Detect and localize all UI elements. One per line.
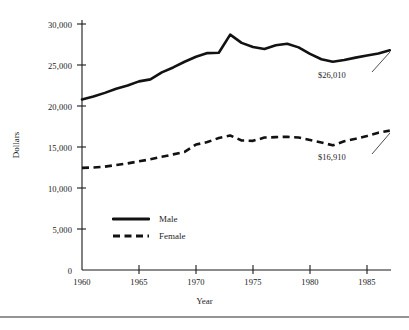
legend-item-male: Male bbox=[112, 210, 232, 227]
x-axis-title: Year bbox=[0, 296, 409, 306]
x-tick-label-1980: 1980 bbox=[290, 277, 330, 287]
chart-legend: Male Female bbox=[112, 210, 232, 244]
x-tick-label-1975: 1975 bbox=[233, 277, 273, 287]
legend-swatch-dashed-icon bbox=[112, 231, 150, 241]
y-tick-label-10000: 10,000 bbox=[12, 184, 72, 194]
annotation-leader-female bbox=[372, 133, 390, 154]
y-tick-label-20000: 20,000 bbox=[12, 102, 72, 112]
annotation-label-male: $26,010 bbox=[318, 70, 346, 80]
y-tick-label-15000: 15,000 bbox=[12, 143, 72, 153]
chart-figure: 30,000 25,000 20,000 15,000 10,000 5,000… bbox=[0, 0, 409, 330]
x-tick-label-1985: 1985 bbox=[347, 277, 387, 287]
x-tick-label-1960: 1960 bbox=[62, 277, 102, 287]
x-tick-label-1965: 1965 bbox=[119, 277, 159, 287]
x-tick-label-1970: 1970 bbox=[176, 277, 216, 287]
legend-label-male: Male bbox=[159, 214, 178, 224]
y-tick-label-25000: 25,000 bbox=[12, 61, 72, 71]
legend-item-female: Female bbox=[112, 227, 232, 244]
y-tick-label-0: 0 bbox=[12, 266, 72, 276]
legend-label-female: Female bbox=[159, 231, 186, 241]
y-tick-label-5000: 5,000 bbox=[12, 225, 72, 235]
series-line-male bbox=[82, 35, 390, 100]
annotation-label-female: $16,910 bbox=[318, 152, 346, 162]
legend-swatch-solid-icon bbox=[112, 214, 150, 224]
series-line-female bbox=[82, 131, 390, 168]
y-axis-title: Dollars bbox=[11, 115, 21, 175]
y-tick-label-30000: 30,000 bbox=[12, 20, 72, 30]
